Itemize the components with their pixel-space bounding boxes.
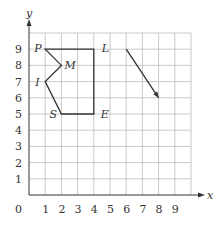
x-axis-arrowhead-icon — [198, 193, 205, 198]
vertex-label-P: P — [33, 42, 42, 55]
vertex-label-I: I — [34, 76, 40, 89]
x-tick-label: 9 — [172, 203, 179, 216]
y-tick-label: 8 — [15, 59, 22, 72]
y-tick-label: 5 — [15, 108, 22, 121]
vertex-label-L: L — [101, 42, 109, 55]
x-tick-label: 6 — [123, 203, 130, 216]
vector-arrowhead-icon — [153, 91, 158, 97]
coordinate-grid-figure: xy0123456789123456789PLESIM — [0, 0, 221, 227]
vertex-label-E: E — [100, 108, 109, 121]
y-tick-label: 6 — [15, 92, 22, 105]
origin-label: 0 — [15, 203, 22, 216]
x-axis-label: x — [207, 189, 214, 202]
x-tick-label: 1 — [42, 203, 49, 216]
x-tick-label: 3 — [75, 203, 82, 216]
vertex-label-S: S — [49, 108, 57, 121]
x-tick-label: 2 — [58, 203, 65, 216]
y-tick-label: 4 — [15, 124, 22, 137]
y-tick-label: 9 — [15, 43, 22, 56]
x-tick-label: 4 — [91, 203, 98, 216]
x-tick-label: 5 — [107, 203, 114, 216]
y-tick-label: 7 — [15, 76, 22, 89]
y-tick-label: 1 — [15, 173, 22, 186]
vertex-label-M: M — [63, 59, 76, 72]
y-axis-label: y — [25, 7, 33, 20]
y-tick-label: 3 — [15, 140, 22, 153]
x-tick-label: 7 — [139, 203, 146, 216]
y-tick-label: 2 — [15, 157, 22, 170]
y-axis-arrowhead-icon — [27, 19, 32, 26]
x-tick-label: 8 — [156, 203, 163, 216]
